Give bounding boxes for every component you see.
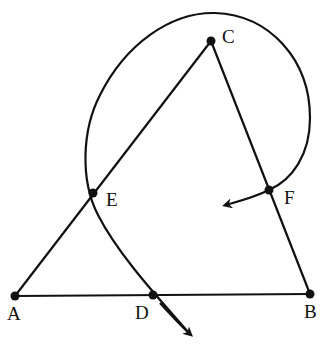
label-e: E bbox=[106, 189, 118, 210]
point-b bbox=[306, 290, 315, 299]
curved-arc bbox=[85, 13, 310, 332]
point-e bbox=[89, 189, 98, 198]
geometry-diagram: A B C D E F bbox=[0, 0, 321, 350]
segment-ab bbox=[15, 294, 310, 296]
segment-ac bbox=[15, 41, 211, 296]
point-a bbox=[11, 292, 20, 301]
label-b: B bbox=[304, 301, 317, 322]
label-d: D bbox=[135, 302, 149, 323]
point-d bbox=[149, 291, 158, 300]
point-c bbox=[207, 37, 216, 46]
label-c: C bbox=[222, 26, 235, 47]
label-f: F bbox=[284, 187, 295, 208]
point-f bbox=[265, 186, 274, 195]
arrow-d-extension bbox=[160, 303, 190, 334]
label-a: A bbox=[7, 303, 21, 324]
